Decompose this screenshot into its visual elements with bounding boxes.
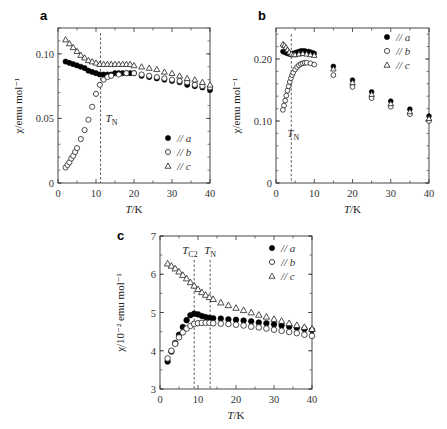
x-tick-label: 20	[347, 188, 358, 199]
y-tick-label: 0.05	[36, 113, 54, 124]
y-axis-label: χ/emu mol⁻¹	[12, 78, 24, 135]
legend-label: // c	[280, 270, 295, 282]
x-tick-label: 10	[91, 188, 102, 199]
y-tick-label: 0.10	[36, 49, 54, 60]
legend-label: // a	[280, 242, 296, 254]
annotation-t-n: TN	[106, 112, 118, 127]
y-tick-label: 0.20	[254, 54, 272, 65]
x-tick-label: 40	[205, 188, 216, 199]
y-tick-label: 0.10	[254, 116, 272, 127]
legend-label: // a	[395, 31, 411, 43]
x-tick-label: 40	[424, 188, 435, 199]
x-axis-label: T/K	[125, 203, 142, 215]
annotation-t-n: TN	[287, 127, 299, 142]
x-tick-label: 30	[269, 394, 280, 405]
y-tick-label: 7	[151, 231, 156, 242]
y-tick-label: 0	[267, 178, 272, 189]
x-tick-label: 30	[167, 188, 178, 199]
panel-letter: a	[40, 8, 48, 23]
series-a	[165, 311, 315, 364]
panel-c: 01020304034567T/Kχ/10⁻² emu mol⁻¹cTC2TN/…	[114, 228, 317, 421]
y-tick-label: 0	[49, 178, 54, 189]
legend: // a// b// c	[269, 242, 296, 282]
legend: // a// b// c	[165, 132, 192, 172]
panel-letter: c	[117, 228, 124, 243]
panel-a: 01020304000.050.10T/Kχ/emu mol⁻¹aTN// a/…	[12, 8, 215, 215]
legend-label: // c	[176, 160, 191, 172]
y-axis-label: χ/10⁻² emu mol⁻¹	[114, 273, 126, 353]
annotation-t-c2: TC2	[182, 244, 197, 259]
panel-b: 01020304000.100.20T/Kχ/emu mol⁻¹bTN// a/…	[230, 8, 434, 215]
figure-canvas: 01020304000.050.10T/Kχ/emu mol⁻¹aTN// a/…	[0, 0, 447, 429]
x-tick-label: 20	[231, 394, 242, 405]
x-tick-label: 30	[386, 188, 397, 199]
y-axis-label: χ/emu mol⁻¹	[230, 78, 242, 135]
y-tick-label: 6	[151, 269, 156, 280]
x-tick-label: 10	[193, 394, 204, 405]
annotation-t-n: TN	[204, 244, 216, 259]
legend-label: // b	[395, 45, 411, 57]
panel-letter: b	[258, 8, 266, 23]
legend-label: // b	[280, 256, 296, 268]
y-tick-label: 3	[151, 384, 156, 395]
x-tick-label: 0	[55, 188, 60, 199]
legend: // a// b// c	[384, 31, 411, 71]
series-c	[63, 37, 213, 87]
x-tick-label: 10	[309, 188, 320, 199]
x-tick-label: 0	[273, 188, 278, 199]
series-b	[165, 320, 315, 361]
legend-label: // a	[176, 132, 192, 144]
legend-label: // b	[176, 146, 192, 158]
x-axis-label: T/K	[227, 409, 244, 421]
x-axis-label: T/K	[344, 203, 361, 215]
y-tick-label: 5	[151, 308, 156, 319]
series-a	[63, 59, 213, 93]
y-tick-label: 4	[151, 346, 157, 357]
x-tick-label: 20	[129, 188, 140, 199]
legend-label: // c	[395, 59, 410, 71]
x-tick-label: 0	[157, 394, 162, 405]
x-tick-label: 40	[307, 394, 318, 405]
